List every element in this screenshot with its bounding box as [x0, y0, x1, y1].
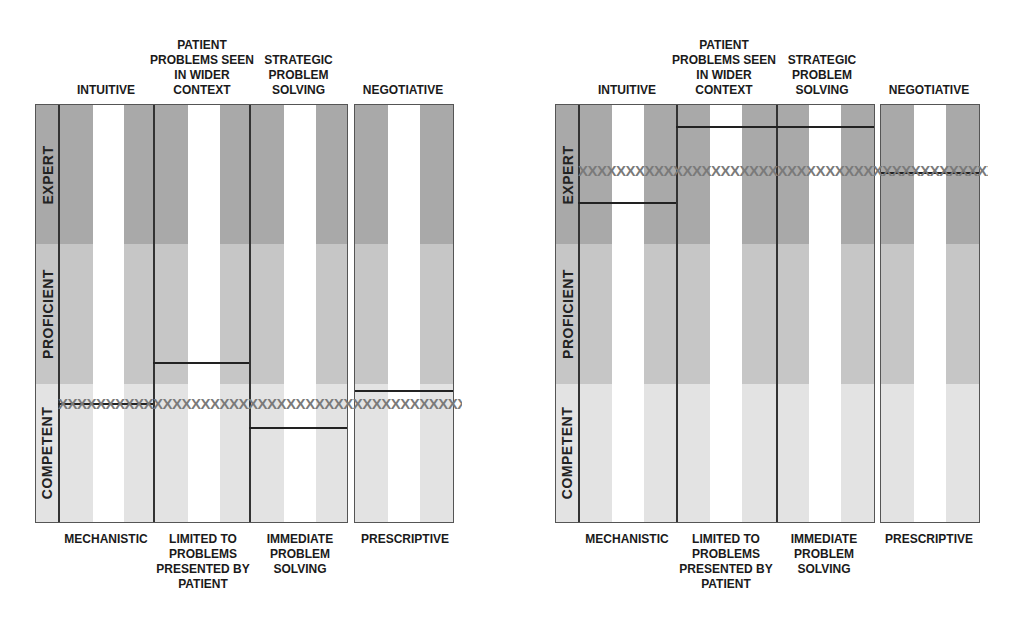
column-header-strategic: STRATEGIC PROBLEM SOLVING: [250, 20, 347, 98]
row-label-competent: COMPETENT: [36, 384, 59, 522]
column-footer-limited: LIMITED TO PROBLEMS PRESENTED BY PATIENT: [148, 532, 258, 592]
white-stripe: [188, 105, 220, 522]
row-label-text: EXPERT: [560, 145, 576, 204]
row-label-text: COMPETENT: [560, 407, 576, 499]
divider: [249, 105, 251, 522]
divider: [58, 105, 60, 522]
column-header-negotiative: NEGOTIATIVE: [350, 20, 456, 98]
divider: [153, 105, 155, 522]
column-header-strategic: STRATEGIC PROBLEM SOLVING: [772, 20, 872, 98]
row-label-competent: COMPETENT: [556, 384, 579, 522]
level-line-col0: [578, 202, 676, 204]
white-stripe: [284, 105, 316, 522]
row-label-proficient: PROFICIENT: [36, 244, 59, 384]
level-line-col3: [355, 390, 453, 392]
column-footer-mechanistic: MECHANISTIC: [576, 532, 678, 547]
level-line-col1-col2: [676, 126, 874, 128]
column-footer-limited: LIMITED TO PROBLEMS PRESENTED BY PATIENT: [670, 532, 782, 592]
white-stripe: [388, 105, 420, 522]
level-line-col1: [153, 362, 249, 364]
grid-main: EXPERT PROFICIENT COMPETENT: [35, 104, 348, 523]
row-label-text: PROFICIENT: [560, 269, 576, 359]
row-label-text: COMPETENT: [40, 407, 56, 499]
row-label-proficient: PROFICIENT: [556, 244, 579, 384]
row-label-expert: EXPERT: [36, 105, 59, 244]
cross-marker-line: XXXXXXXXXXXXXXXXXXXXXXXXXXXXXXXXXXXXXXXX…: [58, 397, 462, 411]
column-header-negotiative: NEGOTIATIVE: [876, 20, 982, 98]
white-stripe: [93, 105, 124, 522]
column-footer-immediate: IMMEDIATE PROBLEM SOLVING: [250, 532, 350, 577]
column-footer-immediate: IMMEDIATE PROBLEM SOLVING: [774, 532, 874, 577]
right-diagram: INTUITIVE PATIENT PROBLEMS SEEN IN WIDER…: [520, 0, 1000, 618]
grid-negotiative: [354, 104, 454, 523]
column-footer-mechanistic: MECHANISTIC: [56, 532, 156, 547]
level-line-col2: [249, 427, 347, 429]
column-footer-prescriptive: PRESCRIPTIVE: [876, 532, 982, 547]
row-label-text: EXPERT: [40, 145, 56, 204]
column-footer-prescriptive: PRESCRIPTIVE: [352, 532, 458, 547]
left-diagram: INTUITIVE PATIENT PROBLEMS SEEN IN WIDER…: [0, 0, 480, 618]
cross-marker-line: XXXXXXXXXXXXXXXXXXXXXXXXXXXXXXXXXXXXXXXX…: [578, 164, 988, 178]
row-label-expert: EXPERT: [556, 105, 579, 244]
column-header-wider-context: PATIENT PROBLEMS SEEN IN WIDER CONTEXT: [140, 20, 264, 98]
column-header-wider-context: PATIENT PROBLEMS SEEN IN WIDER CONTEXT: [662, 20, 786, 98]
row-label-text: PROFICIENT: [40, 269, 56, 359]
